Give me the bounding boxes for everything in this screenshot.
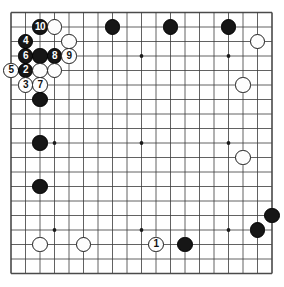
stone-move-number: 8 [52, 50, 57, 60]
stone-move-3: 3 [18, 77, 33, 92]
stone-move-4: 4 [18, 34, 33, 49]
stone-move-number: 10 [35, 21, 45, 31]
stone-move-number: 6 [23, 50, 28, 60]
star-point [227, 228, 231, 232]
stone-black [221, 19, 236, 34]
stone-black [32, 179, 47, 194]
stone-white [47, 19, 62, 34]
stone-white [250, 34, 265, 49]
stone-move-10: 10 [32, 19, 47, 34]
stone-black [264, 208, 279, 223]
star-point [53, 141, 57, 145]
stone-black [32, 92, 47, 107]
stone-white [61, 34, 76, 49]
stone-move-8: 8 [47, 48, 62, 63]
star-point [140, 54, 144, 58]
stone-white [32, 237, 47, 252]
stone-move-9: 9 [61, 48, 76, 63]
stone-black [177, 237, 192, 252]
stone-white [235, 150, 250, 165]
star-point [53, 228, 57, 232]
stone-move-number: 3 [23, 79, 28, 89]
star-point [140, 228, 144, 232]
stone-move-6: 6 [18, 48, 33, 63]
stone-white [76, 237, 91, 252]
stone-move-number: 9 [66, 50, 71, 60]
stone-move-7: 7 [32, 77, 47, 92]
stone-move-number: 7 [37, 79, 42, 89]
stone-move-2: 2 [18, 63, 33, 78]
stone-white [32, 63, 47, 78]
stone-white [235, 77, 250, 92]
stone-move-number: 2 [23, 65, 28, 75]
stone-move-number: 4 [23, 36, 28, 46]
star-point [227, 54, 231, 58]
stone-black [32, 48, 47, 63]
star-point [140, 141, 144, 145]
stone-move-1: 1 [148, 237, 163, 252]
stone-move-number: 1 [153, 239, 158, 249]
stone-black [32, 135, 47, 150]
go-diagram: 10468952371 [0, 0, 284, 287]
stone-black [163, 19, 178, 34]
stone-black [250, 222, 265, 237]
stone-move-number: 5 [8, 65, 13, 75]
stone-white [47, 63, 62, 78]
stone-black [105, 19, 120, 34]
star-point [227, 141, 231, 145]
stone-move-5: 5 [3, 63, 18, 78]
